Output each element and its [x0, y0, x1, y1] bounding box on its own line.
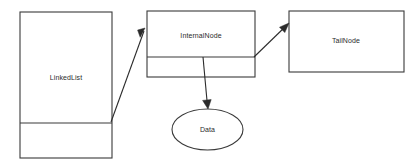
node-linkedlist[interactable]: LinkedList: [20, 12, 112, 158]
diagram-canvas: LinkedList InternalNode TailNode Data: [0, 0, 413, 163]
internalnode-box[interactable]: [147, 11, 255, 77]
tailnode-label: TailNode: [332, 37, 360, 44]
connector-linkedlist-to-internalnode: [111, 28, 145, 122]
internalnode-label: InternalNode: [180, 32, 221, 39]
data-label: Data: [200, 126, 215, 133]
linkedlist-box[interactable]: [20, 12, 112, 158]
linkedlist-label: LinkedList: [50, 74, 83, 81]
diagram-svg: LinkedList InternalNode TailNode Data: [0, 0, 413, 163]
connector-line-linkedlist-internalnode: [111, 31, 144, 122]
node-internalnode[interactable]: InternalNode: [147, 11, 255, 77]
connector-internalnode-to-tailnode: [254, 23, 289, 57]
node-tailnode[interactable]: TailNode: [289, 11, 404, 72]
node-data[interactable]: Data: [172, 109, 243, 150]
arrowhead-icon-data: [203, 100, 212, 109]
